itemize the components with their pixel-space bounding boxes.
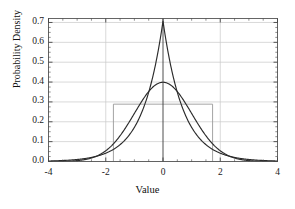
y-axis-title: Probability Density bbox=[11, 10, 22, 88]
x-tick-label: -2 bbox=[92, 167, 120, 177]
y-axis-title-wrapper: Probability Density bbox=[6, 0, 24, 119]
x-axis-title: Value bbox=[0, 184, 295, 195]
x-tick-label: 4 bbox=[264, 167, 292, 177]
y-tick-label: 0.1 bbox=[18, 135, 44, 145]
y-tick-label: 0.0 bbox=[18, 155, 44, 165]
x-tick-label: -4 bbox=[35, 167, 63, 177]
plot-canvas bbox=[0, 0, 295, 209]
x-tick-label: 0 bbox=[149, 167, 177, 177]
x-tick-label: 2 bbox=[206, 167, 234, 177]
probability-density-chart: 0.00.10.20.30.40.50.60.7 -4-2024 Probabi… bbox=[0, 0, 295, 209]
